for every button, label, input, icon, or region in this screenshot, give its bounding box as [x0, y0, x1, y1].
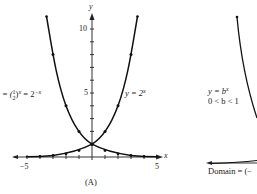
- x-tick-neg5: −5: [20, 163, 29, 171]
- y-tick-5: 5: [84, 89, 88, 97]
- panel-a-caption: (A): [85, 178, 97, 187]
- curve-b-power-x: [237, 17, 257, 118]
- y-axis-arrow-icon: [90, 13, 95, 20]
- panel-b-domain: Domain = (−: [208, 167, 252, 176]
- y-tick-10: 10: [79, 25, 87, 33]
- curve-b-marker: [236, 16, 239, 19]
- x-axis-label: x: [164, 152, 168, 160]
- left-curve-equation: y = (12)x = 2−x: [0, 89, 41, 101]
- panel-b-x-axis-left-arrow-icon: [206, 161, 212, 165]
- panel-b-equation: y = bx: [208, 87, 229, 96]
- right-curve-equation: y = 2x: [125, 89, 146, 98]
- y-axis-label: y: [89, 3, 93, 11]
- panel-b-condition: 0 < b < 1: [208, 97, 239, 106]
- x-axis-left-arrow-icon: [12, 155, 18, 159]
- x-tick-5: 5: [155, 163, 159, 171]
